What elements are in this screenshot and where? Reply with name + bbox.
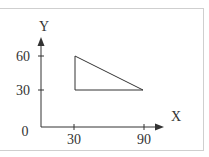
- x-axis-arrow-icon: [155, 124, 164, 131]
- x-tick-label-30: 30: [67, 132, 81, 147]
- y-tick-label-30: 30: [16, 83, 30, 98]
- origin-label: 0: [22, 124, 29, 139]
- y-tick-label-60: 60: [16, 49, 30, 64]
- x-axis-label: X: [171, 109, 181, 124]
- y-axis-arrow-icon: [38, 37, 45, 46]
- y-axis-label: Y: [39, 19, 49, 34]
- x-tick-label-90: 90: [137, 132, 151, 147]
- triangle-shape: [75, 56, 143, 90]
- coordinate-diagram: Y X 0 60 30 30 90: [0, 0, 209, 157]
